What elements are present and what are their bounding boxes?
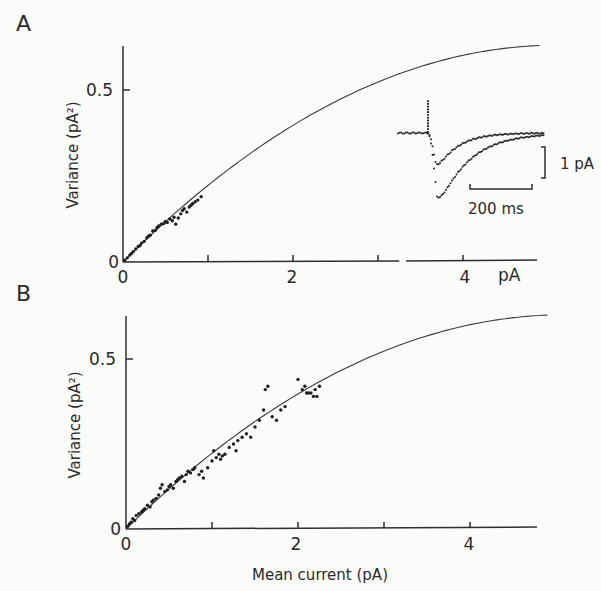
data-point: [179, 212, 182, 215]
data-point: [166, 221, 169, 224]
trace-point: [453, 178, 455, 180]
trace-point: [445, 155, 447, 157]
data-point: [172, 216, 175, 219]
trace-point: [492, 145, 494, 147]
trace-point: [448, 153, 450, 155]
trace-point: [465, 163, 467, 165]
panel-a-x-tick-2: 2: [287, 267, 298, 287]
panel-a-y-axis-title: Variance (pA²): [64, 101, 82, 208]
trace-point: [454, 176, 456, 178]
data-point: [223, 453, 226, 456]
data-point: [183, 480, 186, 483]
x-axis-line: [126, 527, 537, 529]
data-point: [232, 442, 235, 445]
trace-point: [543, 132, 545, 134]
data-point: [174, 222, 177, 225]
data-point: [234, 449, 237, 452]
data-point: [166, 488, 169, 491]
trace-point: [444, 158, 446, 160]
data-point: [149, 233, 152, 236]
trace-point: [430, 143, 432, 145]
trace-point: [460, 144, 462, 146]
figure: A Variance (pA²) 0.5 0 0 2 4 pA 1 pA 200…: [0, 0, 601, 591]
data-point: [271, 415, 274, 418]
trace-point: [466, 161, 468, 163]
x-axis-line-left: [123, 261, 399, 262]
trace-point: [445, 189, 447, 191]
data-point: [301, 388, 304, 391]
trace-point: [477, 153, 479, 155]
data-point: [249, 436, 252, 439]
trace-point: [442, 193, 444, 195]
data-point: [143, 240, 146, 243]
trace-point: [462, 166, 464, 168]
trace-point: [432, 145, 434, 147]
data-point: [240, 436, 243, 439]
data-point: [183, 207, 186, 210]
data-point: [133, 519, 136, 522]
panel-b-x-tick-4: 4: [464, 534, 475, 554]
trace-point: [475, 154, 477, 156]
artifact-point: [427, 100, 429, 102]
panel-a-inset-traces: [397, 100, 545, 199]
panel-a-y-tick-0.5: 0.5: [86, 80, 113, 100]
data-point: [123, 259, 126, 262]
artifact-point: [427, 120, 429, 122]
trace-point: [435, 161, 437, 163]
data-point: [283, 405, 286, 408]
data-point: [206, 466, 209, 469]
inset-time-scale-label: 200 ms: [468, 200, 524, 218]
data-point: [169, 483, 172, 486]
data-point: [212, 449, 215, 452]
data-point: [210, 459, 213, 462]
data-point: [185, 473, 188, 476]
trace-point: [454, 148, 456, 150]
trace-point: [481, 150, 483, 152]
panel-a-x-unit-label: pA: [498, 265, 521, 285]
panel-a-x-tick-0: 0: [118, 267, 129, 287]
data-point: [309, 391, 312, 394]
data-point: [236, 439, 239, 442]
artifact-point: [427, 103, 429, 105]
x-axis-line-right: [406, 260, 537, 261]
trace-point: [543, 134, 545, 136]
data-point: [215, 456, 218, 459]
data-point: [172, 487, 175, 490]
panel-b-axes: [126, 316, 537, 529]
data-point: [159, 487, 162, 490]
data-point: [157, 493, 160, 496]
data-point: [160, 483, 163, 486]
data-point: [200, 470, 203, 473]
trace-point: [435, 181, 437, 183]
trace-point: [439, 162, 441, 164]
trace-point: [460, 168, 462, 170]
panel-b-y-tick-0.5: 0.5: [89, 349, 116, 369]
panel-b-x-tick-0: 0: [121, 534, 132, 554]
inset-current-scale-label: 1 pA: [560, 155, 595, 173]
data-point: [185, 210, 188, 213]
trace-point: [439, 196, 441, 198]
data-point: [266, 385, 269, 388]
trace-point: [456, 173, 458, 175]
artifact-point: [427, 106, 429, 108]
artifact-point: [427, 111, 429, 113]
panel-b-x-tick-2: 2: [291, 534, 302, 554]
data-point: [275, 419, 278, 422]
panel-b: B Variance (pA²) 0.5 0 0 2 4 Mean curren…: [16, 281, 547, 584]
trace-point: [444, 191, 446, 193]
panel-a-x-tick-4: 4: [460, 267, 471, 287]
trace-point: [471, 158, 473, 160]
artifact-point: [427, 108, 429, 110]
data-point: [180, 475, 183, 478]
panel-a-axes: [123, 46, 537, 262]
panel-b-fit-curve: [126, 315, 547, 529]
data-point: [279, 408, 282, 411]
data-point: [196, 198, 199, 201]
trace-point: [432, 154, 434, 156]
data-point: [228, 446, 231, 449]
panel-a: A Variance (pA²) 0.5 0 0 2 4 pA 1 pA 200…: [16, 11, 595, 287]
data-point: [148, 505, 151, 508]
trace-point: [450, 182, 452, 184]
trace-point: [447, 186, 449, 188]
artifact-point: [427, 122, 429, 124]
